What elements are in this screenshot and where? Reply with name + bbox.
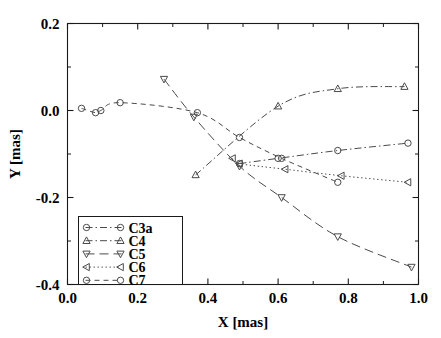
series-line-c4 [196,87,405,175]
scatter-line-chart: 0.00.20.40.60.81.00.20.0-0.2-0.4 X [mas]… [0,0,441,338]
series-line-c7 [82,103,338,183]
series-c7 [78,99,341,185]
x-tick-label: 0.6 [269,290,288,306]
data-point-c3a [335,147,341,153]
y-tick-label: -0.4 [36,277,60,293]
x-axis-title: X [mas] [218,314,268,330]
series-c5 [160,76,415,271]
series-c4 [192,83,408,178]
data-point-c6 [337,172,344,179]
y-axis-title: Y [mas] [7,129,23,179]
series-line-c6 [232,158,408,182]
chart-legend: C3aC4C5C6C7 [79,217,183,289]
data-point-c7 [78,105,84,111]
y-tick-label: 0.0 [41,103,60,119]
x-tick-label: 0.2 [128,290,147,306]
x-tick-label: 1.0 [409,290,428,306]
series-c3a [236,140,411,167]
data-point-c5 [408,264,415,271]
data-point-c6 [404,179,411,186]
legend-label: C7 [129,273,146,288]
y-tick-label: -0.2 [36,190,60,206]
data-point-c7 [236,134,242,140]
data-point-c4 [401,83,408,90]
series-c6 [229,155,411,186]
series-line-c3a [239,143,407,163]
data-point-c5 [334,234,341,241]
figure-container: 0.00.20.40.60.81.00.20.0-0.2-0.4 X [mas]… [0,0,441,338]
x-tick-label: 0.8 [339,290,358,306]
y-tick-label: 0.2 [41,16,60,32]
data-point-c7 [335,179,341,185]
x-tick-label: 0.0 [58,290,77,306]
x-tick-label: 0.4 [199,290,218,306]
data-point-c3a [405,140,411,146]
